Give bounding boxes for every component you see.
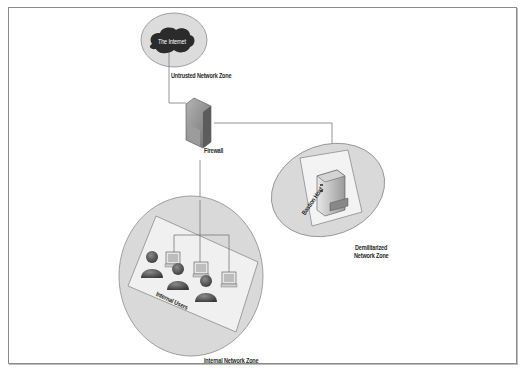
- untrusted-zone-label: Untrusted Network Zone: [171, 72, 231, 79]
- dmz-zone: [258, 128, 398, 252]
- dmz-zone-label-line1: Demilitarized: [355, 244, 387, 251]
- internal-zone-label: Internal Network Zone: [204, 357, 258, 364]
- dmz-zone-label-line2: Network Zone: [354, 252, 388, 259]
- computer-icon: [221, 272, 237, 287]
- computer-icon: [193, 262, 209, 277]
- internet-label: The Internet: [158, 38, 186, 45]
- network-diagram: [0, 0, 524, 373]
- internal-zone: [119, 196, 263, 356]
- firewall-icon: [186, 98, 211, 148]
- firewall-label: Firewall: [204, 147, 223, 154]
